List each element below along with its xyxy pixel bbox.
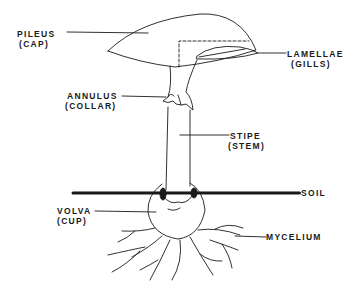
label-annulus: ANNULUS (COLLAR) [67,91,118,111]
label-mycelium-name: MYCELIUM [266,232,322,242]
mycelium-roots [108,225,243,280]
label-stipe-name: STIPE [230,131,265,141]
label-stipe: STIPE (STEM) [230,131,265,151]
label-annulus-name: ANNULUS [67,91,118,101]
volva-shade-right [191,188,197,198]
leader-annulus [122,96,166,97]
label-annulus-common: (COLLAR) [65,101,118,111]
label-pileus-name: PILEUS [17,29,56,39]
label-volva-name: VOLVA [57,206,92,216]
label-volva-common: (CUP) [57,216,92,226]
label-mycelium: MYCELIUM [266,232,322,242]
label-soil: SOIL [301,188,326,198]
label-pileus: PILEUS (CAP) [17,29,56,49]
label-lamellae-name: LAMELLAE [287,49,344,59]
label-volva: VOLVA (CUP) [57,206,92,226]
label-lamellae: LAMELLAE (GILLS) [287,49,344,69]
label-lamellae-common: (GILLS) [291,59,344,69]
stem-lower [166,107,190,190]
gills [197,46,258,59]
label-soil-name: SOIL [301,188,326,198]
leader-mycelium [235,236,266,237]
annulus-folds [168,94,181,105]
leader-pileus [67,32,148,33]
leader-volva [95,211,156,212]
cap-outline [108,14,256,67]
volva-shade-left [160,188,166,200]
volva-inner [163,195,193,210]
label-stipe-common: (STEM) [228,141,265,151]
label-pileus-common: (CAP) [19,39,56,49]
